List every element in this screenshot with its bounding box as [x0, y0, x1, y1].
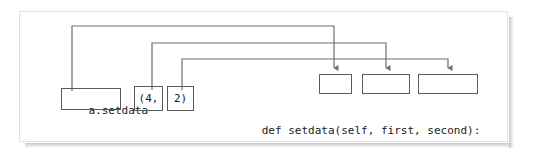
def-param-self-text: self, [341, 124, 374, 137]
def-gap-1 [374, 124, 381, 137]
box-call-receiver[interactable] [61, 88, 121, 110]
def-colon-text: : [474, 124, 481, 137]
box-param-second[interactable] [418, 74, 478, 94]
def-param-second-text: second) [427, 124, 473, 137]
def-prefix-text: def setdata [262, 124, 335, 137]
figure-shadow-right [509, 17, 514, 148]
def-param-first-text: first, [381, 124, 421, 137]
code-line-def: def setdata(self, first, second): [222, 108, 480, 153]
box-call-arg1[interactable]: (4, [134, 86, 163, 111]
box-call-arg2[interactable]: 2) [167, 86, 194, 111]
box-param-self[interactable] [319, 74, 352, 94]
box-param-first[interactable] [362, 74, 410, 94]
call-arg2-text: 2) [174, 93, 187, 104]
call-arg1-text: (4, [139, 93, 159, 104]
diagram-screenshot: a.setdata (4, 2) def setdata(self, first… [0, 0, 540, 161]
